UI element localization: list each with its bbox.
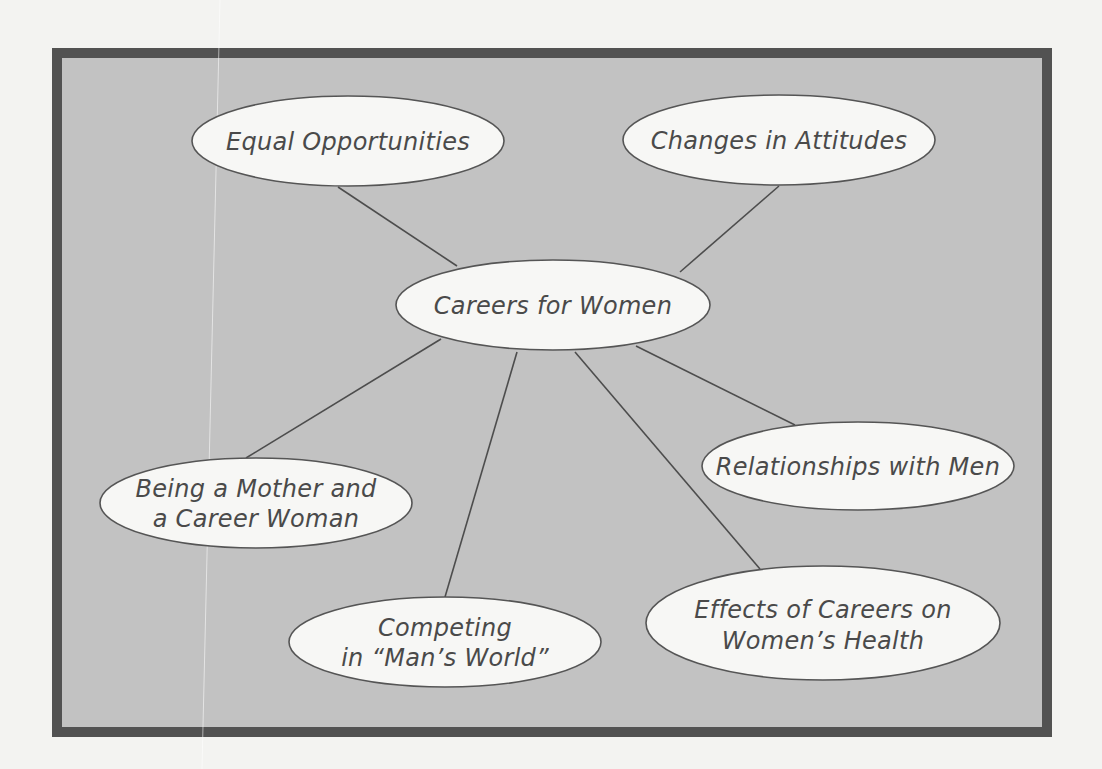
node-label-line-2: a Career Woman (153, 505, 360, 533)
concept-map: Equal Opportunities Changes in Attitudes… (0, 0, 1102, 769)
node-label: Equal Opportunities (226, 128, 470, 156)
node-label: Relationships with Men (716, 453, 1000, 481)
node-label-line-1: Being a Mother and (135, 475, 377, 503)
node-effects-on-health: Effects of Careers on Women’s Health (646, 566, 1000, 680)
node-ellipse (100, 458, 412, 548)
node-competing-mans-world: Competing in “Man’s World” (289, 597, 601, 687)
node-careers-for-women: Careers for Women (396, 260, 710, 350)
node-equal-opportunities: Equal Opportunities (192, 96, 504, 186)
node-label-line-2: Women’s Health (722, 627, 925, 655)
node-label-line-1: Competing (378, 614, 512, 642)
center-label: Careers for Women (434, 292, 672, 320)
node-label-line-1: Effects of Careers on (694, 596, 951, 624)
node-changes-in-attitudes: Changes in Attitudes (623, 95, 935, 185)
node-being-a-mother: Being a Mother and a Career Woman (100, 458, 412, 548)
node-relationships-with-men: Relationships with Men (702, 422, 1014, 510)
node-label: Changes in Attitudes (651, 127, 908, 155)
node-ellipse (289, 597, 601, 687)
node-label-line-2: in “Man’s World” (341, 644, 549, 672)
